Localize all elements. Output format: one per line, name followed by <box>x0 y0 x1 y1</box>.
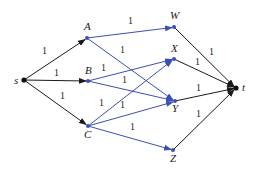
node-Z: Z <box>170 148 177 164</box>
edge-s-C: 1 <box>24 80 86 125</box>
node-label-Y: Y <box>172 102 180 114</box>
node-label-t: t <box>242 81 246 93</box>
flow-network-diagram: 1 1 1 1 1 1 1 1 1 1 1 1 <box>0 0 259 171</box>
node-label-s: s <box>14 74 18 86</box>
edge-label-s-B: 1 <box>54 67 59 78</box>
node-Y: Y <box>172 99 180 114</box>
node-t: t <box>233 81 246 93</box>
node-label-A: A <box>83 20 91 32</box>
edge-label-A-Y: 1 <box>120 44 125 55</box>
node-label-X: X <box>170 42 179 54</box>
edge-label-B-X: 1 <box>101 62 106 73</box>
edge-X-t: 1 <box>174 56 234 87</box>
edge-label-A-W: 1 <box>128 15 133 26</box>
edge-label-Z-t: 1 <box>196 108 201 119</box>
edge-label-C-Z: 1 <box>130 121 135 132</box>
edge-label-C-X: 1 <box>99 97 104 108</box>
edge-A-W: 1 <box>87 15 172 38</box>
edge-C-Z: 1 <box>88 121 171 150</box>
node-label-C: C <box>84 128 92 140</box>
node-X: X <box>170 42 179 61</box>
edge-label-W-t: 1 <box>209 46 214 57</box>
edge-label-s-C: 1 <box>60 90 65 101</box>
node-label-B: B <box>85 64 92 76</box>
node-A: A <box>83 20 91 40</box>
edge-W-t: 1 <box>174 27 234 87</box>
edge-label-B-Y: 1 <box>122 74 127 85</box>
node-label-W: W <box>170 9 180 21</box>
edge-label-X-t: 1 <box>195 56 200 67</box>
node-s: s <box>14 74 27 86</box>
node-label-Z: Z <box>170 152 177 164</box>
node-W: W <box>170 9 180 29</box>
edge-label-s-A: 1 <box>42 45 47 56</box>
edge-label-C-Y: 1 <box>120 99 125 110</box>
edge-label-Y-t: 1 <box>196 82 201 93</box>
